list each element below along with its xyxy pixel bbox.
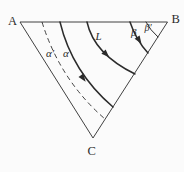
curve-label-beta-prime: β′ — [144, 22, 153, 33]
curve-label-alpha: α — [63, 47, 69, 59]
diagram-canvas: A B C α′ α L β β′ — [0, 0, 184, 172]
ternary-diagram: A B C α′ α L β β′ — [0, 0, 184, 172]
vertex-label-C: C — [88, 144, 96, 158]
curve-label-beta: β — [130, 26, 137, 38]
curve-label-alpha-prime: α′ — [46, 47, 55, 59]
vertex-label-A: A — [8, 14, 17, 28]
vertex-label-B: B — [172, 12, 180, 26]
curve-label-L: L — [95, 30, 102, 42]
